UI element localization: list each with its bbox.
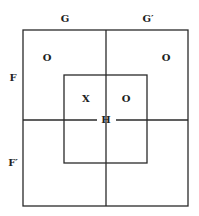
label-g-prime: G′ — [142, 13, 154, 24]
label-g: G — [61, 13, 70, 24]
mark-outer-fg: O — [43, 52, 52, 63]
mark-inner-fg-prime: O — [122, 93, 131, 104]
label-f: F — [9, 72, 16, 83]
venn-square-diagram: G G′ F F′ H O O X O — [0, 0, 199, 216]
label-h: H — [101, 114, 110, 125]
mark-inner-fg: X — [82, 93, 90, 104]
label-f-prime: F′ — [8, 157, 18, 168]
mark-outer-fg-prime: O — [162, 52, 171, 63]
